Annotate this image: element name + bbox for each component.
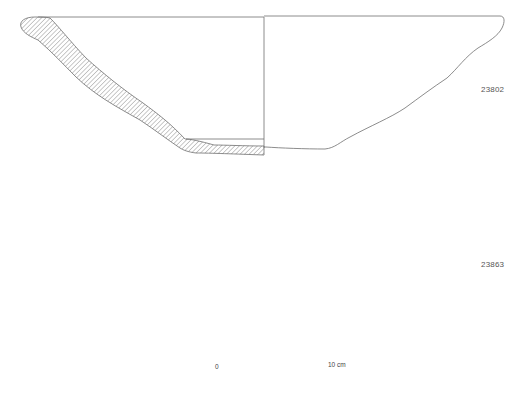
pottery-drawing-sheet [0, 0, 519, 395]
vessel-1-section-profile [21, 17, 264, 155]
vessel-1-drawing [21, 16, 504, 155]
catalog-number-label-1: 23802 [481, 85, 504, 94]
vessel-1-exterior-outline [264, 16, 504, 149]
scale-start-label: 0 [215, 363, 219, 370]
catalog-number-label-2: 23863 [481, 260, 504, 269]
scale-end-label: 10 cm [328, 361, 346, 368]
